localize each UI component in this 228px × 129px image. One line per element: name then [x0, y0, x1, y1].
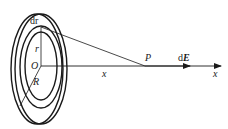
- label-x-axis: x: [212, 68, 218, 79]
- label-r: r: [35, 43, 39, 54]
- label-dE: dE: [178, 52, 190, 63]
- label-P: P: [144, 52, 151, 63]
- label-O: O: [31, 60, 38, 71]
- label-R: R: [32, 76, 39, 87]
- disc-field-diagram: dr r O R x P dE x: [0, 0, 228, 129]
- label-dr: dr: [30, 15, 39, 26]
- label-x-distance: x: [101, 68, 107, 79]
